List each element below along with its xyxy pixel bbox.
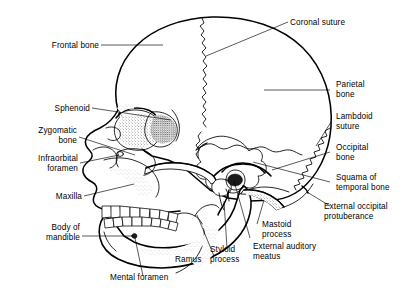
label-infraorbital-foramen-line1: Infraorbital bbox=[38, 154, 78, 163]
label-styloid-process-line2: process bbox=[210, 255, 239, 264]
label-squama-temporal-line2: temporal bone bbox=[336, 183, 390, 192]
label-occipital-bone-line2: bone bbox=[336, 153, 355, 162]
label-external-auditory-meatus-line2: meatus bbox=[253, 252, 280, 261]
label-maxilla: Maxilla bbox=[56, 192, 83, 201]
label-ramus: Ramus bbox=[175, 255, 201, 264]
label-body-of-mandible-line2: mandible bbox=[46, 233, 80, 242]
label-external-auditory-meatus-line1: External auditory bbox=[253, 242, 317, 251]
label-parietal-bone-line1: Parietal bbox=[336, 80, 365, 89]
label-body-of-mandible-line1: Body of bbox=[52, 223, 81, 232]
label-lambdoid-suture-line1: Lambdoid bbox=[336, 112, 373, 121]
label-lambdoid-suture-line2: suture bbox=[336, 122, 360, 131]
label-frontal-bone: Frontal bone bbox=[52, 41, 100, 50]
label-external-occipital-protuberance-line2: protuberance bbox=[324, 212, 374, 221]
label-mastoid-process-line1: Mastoid bbox=[262, 220, 292, 229]
label-infraorbital-foramen-line2: foramen bbox=[47, 164, 78, 173]
label-external-occipital-protuberance-line1: External occipital bbox=[324, 202, 388, 211]
label-squama-temporal-line1: Squama of bbox=[336, 173, 377, 182]
label-occipital-bone-line1: Occipital bbox=[336, 143, 368, 152]
label-styloid-process-line1: Styloid bbox=[210, 245, 236, 254]
coronoid-process bbox=[195, 205, 219, 216]
label-parietal-bone-line2: bone bbox=[336, 90, 355, 99]
label-mental-foramen: Mental foramen bbox=[110, 273, 169, 282]
label-sphenoid: Sphenoid bbox=[55, 104, 91, 113]
label-zygomatic-bone-line2: bone bbox=[58, 136, 77, 145]
label-coronal-suture: Coronal suture bbox=[290, 18, 345, 27]
skull-diagram-figure: Frontal bone Sphenoid Zygomatic bone Inf… bbox=[0, 0, 414, 297]
label-zygomatic-bone-line1: Zygomatic bbox=[38, 126, 77, 135]
label-mastoid-process-line2: process bbox=[262, 230, 291, 239]
